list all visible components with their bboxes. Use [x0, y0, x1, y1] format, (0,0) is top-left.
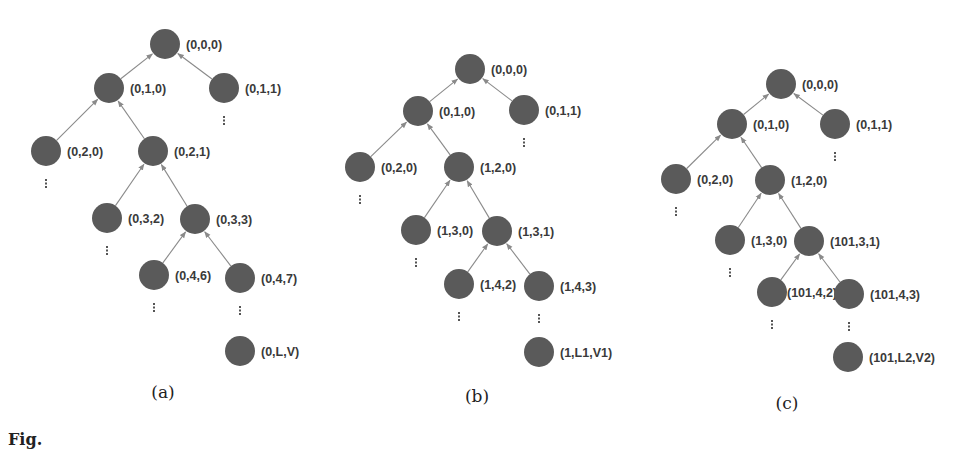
ellipsis-vertical-icon — [45, 179, 47, 188]
node-circle — [150, 29, 180, 59]
node-circle — [757, 277, 787, 307]
node-circle — [524, 337, 554, 367]
node-label: (1,3,1) — [518, 225, 554, 239]
node-circle — [833, 342, 863, 372]
node-label: (0,0,0) — [802, 78, 838, 92]
node-circle — [482, 216, 512, 246]
ellipsis-vertical-icon — [538, 314, 540, 323]
tree-node: (0,4,6) — [139, 260, 211, 312]
tree-node: (101,4,2) — [757, 277, 837, 329]
node-label: (0,1,0) — [753, 118, 789, 132]
ellipsis-vertical-icon — [223, 116, 225, 125]
node-label: (0,3,2) — [128, 212, 164, 226]
ellipsis-vertical-icon — [675, 207, 677, 216]
node-label: (0,1,0) — [130, 82, 166, 96]
tree-node: (0,2,0) — [661, 164, 733, 216]
node-circle — [209, 73, 239, 103]
node-label: (0,4,7) — [261, 272, 297, 286]
subcaption-b: (b) — [465, 386, 489, 406]
edge-b3-to-b1 — [371, 122, 407, 156]
node-circle — [180, 204, 210, 234]
node-label: (0,1,1) — [545, 104, 581, 118]
edge-c7-to-c6 — [781, 254, 800, 280]
edge-a7-to-a6 — [163, 232, 186, 263]
node-label: (0,2,1) — [174, 145, 210, 159]
edge-b4-to-b1 — [427, 124, 450, 155]
node-label: (101,4,3) — [870, 288, 920, 302]
node-label: (1,4,2) — [480, 278, 516, 292]
edge-a3-to-a1 — [57, 99, 98, 140]
node-circle — [455, 54, 485, 84]
node-circle — [225, 263, 255, 293]
edge-a4-to-a1 — [118, 101, 144, 139]
ellipsis-vertical-icon — [458, 312, 460, 321]
tree-node: (101,L2,V2) — [833, 342, 935, 372]
node-label: (0,0,0) — [186, 38, 222, 52]
node-label: (101,L2,V2) — [869, 351, 935, 365]
tree-node: (0,1,0) — [717, 109, 789, 139]
node-label: (0,1,1) — [856, 118, 892, 132]
tree-node: (0,1,1) — [509, 95, 581, 147]
ellipsis-vertical-icon — [415, 258, 417, 267]
edge-c3-to-c1 — [687, 135, 721, 168]
tree-node: (0,1,0) — [94, 73, 166, 103]
node-circle — [794, 226, 824, 256]
node-label: (1,2,0) — [480, 161, 516, 175]
subcaption-c: (c) — [776, 393, 799, 413]
tree-node: (1,3,1) — [482, 216, 554, 246]
tree-node: (101,4,3) — [834, 279, 920, 331]
node-label: (0,0,0) — [491, 63, 527, 77]
figure-caption: Fig. — [8, 432, 42, 448]
panel-b-tree: (0,0,0)(0,1,0)(0,1,1)(0,2,0)(1,2,0)(1,3,… — [345, 54, 612, 406]
panel-a-tree: (0,0,0)(0,1,0)(0,1,1)(0,2,0)(0,2,1)(0,3,… — [31, 29, 299, 402]
node-circle — [31, 136, 61, 166]
ellipsis-vertical-icon — [239, 306, 241, 315]
tree-node: (0,3,2) — [92, 203, 164, 255]
node-label: (0,2,0) — [381, 161, 417, 175]
edge-b7-to-b6 — [468, 244, 488, 272]
edge-c4-to-c1 — [741, 137, 762, 167]
node-circle — [524, 271, 554, 301]
edge-c6-to-c4 — [779, 193, 801, 228]
node-circle — [403, 96, 433, 126]
node-label: (1,2,0) — [791, 174, 827, 188]
subcaption-a: (a) — [151, 382, 174, 402]
node-label: (1,3,0) — [751, 234, 787, 248]
tree-node: (1,3,0) — [715, 225, 787, 277]
tree-node: (1,4,2) — [444, 269, 516, 321]
tree-node: (101,3,1) — [794, 226, 880, 256]
node-label: (1,L1,V1) — [560, 346, 612, 360]
tree-node: (0,2,0) — [345, 152, 417, 204]
node-circle — [444, 152, 474, 182]
tree-node: (0,0,0) — [150, 29, 222, 59]
ellipsis-vertical-icon — [848, 322, 850, 331]
edge-b5-to-b4 — [424, 180, 450, 217]
tree-node: (0,2,0) — [31, 136, 103, 188]
node-circle — [661, 164, 691, 194]
node-circle — [401, 215, 431, 245]
tree-node: (1,2,0) — [755, 165, 827, 195]
node-circle — [444, 269, 474, 299]
ellipsis-vertical-icon — [523, 138, 525, 147]
node-circle — [138, 136, 168, 166]
edge-a2-to-a0 — [178, 54, 212, 79]
tree-node: (0,1,1) — [209, 73, 281, 125]
panel-c-tree: (0,0,0)(0,1,0)(0,1,1)(0,2,0)(1,2,0)(1,3,… — [661, 69, 935, 413]
node-label: (0,1,1) — [245, 82, 281, 96]
tree-node: (0,1,0) — [403, 96, 475, 126]
edge-a8-to-a6 — [205, 232, 231, 266]
node-label: (0,4,6) — [175, 269, 211, 283]
edge-b1-to-b0 — [430, 79, 458, 102]
tree-node: (1,3,0) — [401, 215, 473, 267]
edge-b2-to-b0 — [483, 79, 512, 101]
edge-a5-to-a4 — [115, 164, 143, 205]
tree-node: (0,0,0) — [766, 69, 838, 99]
node-circle — [834, 279, 864, 309]
node-label: (0,L,V) — [261, 345, 299, 359]
node-label: (0,2,0) — [67, 145, 103, 159]
node-label: (101,3,1) — [830, 235, 880, 249]
edge-a1-to-a0 — [121, 54, 153, 79]
node-circle — [509, 95, 539, 125]
ellipsis-vertical-icon — [771, 320, 773, 329]
